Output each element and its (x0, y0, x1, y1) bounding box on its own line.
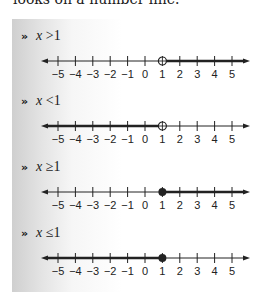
right-arrow-icon (243, 124, 250, 129)
tick-label: −1 (121, 68, 134, 80)
operator: ≥ (46, 159, 54, 174)
tick-label: 1 (159, 68, 165, 80)
inequality-label: » x ≥1 (21, 159, 61, 175)
number-line: −5−4−3−2−1012345 (0, 247, 261, 277)
double-chevron-icon: » (21, 30, 26, 43)
tick-label: 4 (212, 68, 218, 80)
value: 1 (54, 225, 61, 240)
left-arrow-icon (41, 59, 48, 64)
variable: x (36, 93, 42, 108)
tick-label: −3 (87, 199, 100, 211)
closed-circle-icon (158, 188, 166, 196)
tick-label: −5 (52, 265, 65, 277)
inequality-item-2: » x <1 −5−4−3−2−1012345 (0, 93, 261, 159)
tick-label: 4 (212, 265, 218, 277)
tick-label: 4 (212, 133, 218, 145)
tick-label: 0 (142, 68, 148, 80)
tick-label: −4 (69, 68, 82, 80)
closed-circle-icon (158, 254, 166, 262)
value: 1 (54, 28, 61, 43)
inequality-expression: x ≥1 (36, 159, 60, 175)
variable: x (36, 28, 42, 43)
tick-label: −1 (121, 199, 134, 211)
tick-label: −2 (104, 265, 117, 277)
inequality-label: » x >1 (21, 28, 61, 44)
tick-label: 0 (142, 265, 148, 277)
inequality-item-3: » x ≥1 −5−4−3−2−1012345 (0, 159, 261, 225)
variable: x (36, 225, 42, 240)
tick-label: −3 (87, 133, 100, 145)
tick-label: 2 (177, 199, 183, 211)
value: 1 (54, 159, 61, 174)
tick-label: −2 (104, 133, 117, 145)
operator: < (46, 93, 54, 108)
tick-label: 2 (177, 68, 183, 80)
number-line: −5−4−3−2−1012345 (0, 50, 261, 80)
tick-label: −3 (87, 265, 100, 277)
double-chevron-icon: » (21, 95, 26, 108)
tick-label: 3 (194, 133, 200, 145)
number-line: −5−4−3−2−1012345 (0, 115, 261, 145)
operator: > (46, 28, 54, 43)
tick-label: 1 (159, 199, 165, 211)
variable: x (36, 159, 42, 174)
tick-label: 3 (194, 265, 200, 277)
tick-label: −5 (52, 68, 65, 80)
number-line: −5−4−3−2−1012345 (0, 181, 261, 211)
tick-label: −1 (121, 265, 134, 277)
right-arrow-icon (243, 256, 250, 261)
inequality-item-4: » x ≤1 −5−4−3−2−1012345 (0, 225, 261, 291)
tick-label: −1 (121, 133, 134, 145)
inequality-label: » x <1 (21, 93, 61, 109)
tick-label: 5 (229, 133, 235, 145)
tick-label: 0 (142, 133, 148, 145)
operator: ≤ (46, 225, 54, 240)
tick-label: −2 (104, 199, 117, 211)
tick-label: 5 (229, 68, 235, 80)
tick-label: 4 (212, 199, 218, 211)
tick-label: 0 (142, 199, 148, 211)
tick-label: −3 (87, 68, 100, 80)
tick-label: 1 (159, 265, 165, 277)
tick-label: 3 (194, 199, 200, 211)
inequality-expression: x >1 (36, 28, 61, 44)
tick-label: 2 (177, 133, 183, 145)
tick-label: 3 (194, 68, 200, 80)
inequality-label: » x ≤1 (21, 225, 61, 241)
tick-label: 5 (229, 265, 235, 277)
inequality-item-1: » x >1 −5−4−3−2−1012345 (0, 28, 261, 94)
tick-label: 5 (229, 199, 235, 211)
intro-text: looks on a number line. (13, 0, 180, 6)
tick-label: −4 (69, 265, 82, 277)
tick-label: −2 (104, 68, 117, 80)
tick-label: −5 (52, 199, 65, 211)
tick-label: 2 (177, 265, 183, 277)
double-chevron-icon: » (21, 161, 26, 174)
tick-label: −5 (52, 133, 65, 145)
tick-label: −4 (69, 199, 82, 211)
double-chevron-icon: » (21, 227, 26, 240)
inequality-expression: x ≤1 (36, 225, 60, 241)
inequality-expression: x <1 (36, 93, 61, 109)
tick-label: −4 (69, 133, 82, 145)
value: 1 (54, 93, 61, 108)
tick-label: 1 (159, 133, 165, 145)
left-arrow-icon (41, 190, 48, 195)
